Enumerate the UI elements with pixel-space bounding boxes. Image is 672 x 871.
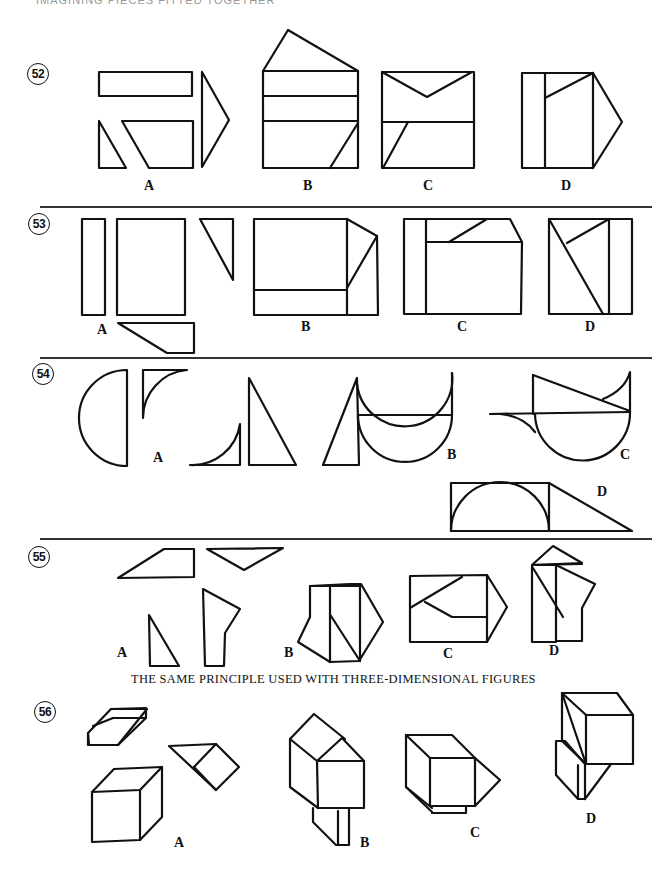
problem-55-option-d — [532, 546, 595, 642]
problem-56-option-d — [556, 693, 633, 799]
problem-52-option-b — [263, 30, 358, 168]
problem-54-option-d — [451, 482, 632, 531]
problem-54-option-b — [323, 373, 452, 465]
problem-55-option-b — [298, 584, 383, 662]
problem-55-pieces — [118, 548, 283, 666]
problem-52-option-c — [382, 72, 474, 168]
problem-53-pieces — [82, 219, 233, 353]
problem-55-option-c — [410, 575, 507, 642]
problem-56-pieces — [88, 708, 239, 842]
problem-52-option-d — [522, 73, 622, 168]
problem-54-option-c — [490, 372, 630, 461]
problem-54-pieces — [79, 370, 296, 466]
problem-56-option-b — [290, 714, 364, 845]
problem-52-pieces — [99, 72, 229, 168]
problem-53-option-b — [254, 219, 378, 315]
problem-53-option-d — [549, 219, 632, 314]
problem-56-option-c — [406, 735, 500, 813]
problem-53-option-c — [404, 219, 522, 314]
puzzle-figures — [0, 0, 672, 871]
